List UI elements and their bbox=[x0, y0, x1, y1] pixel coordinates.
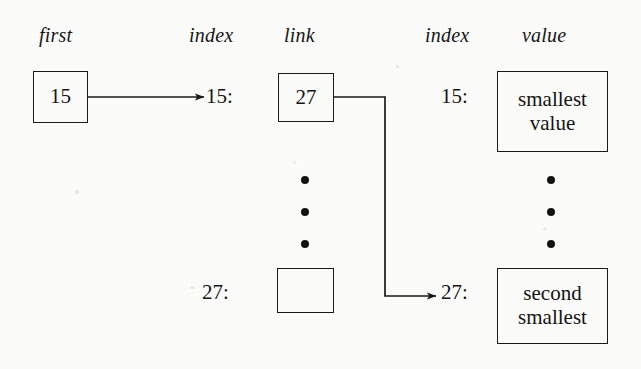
arrow-link-27-to-index-27 bbox=[334, 97, 436, 296]
linked-list-array-diagram: first index link index value 15 15: 27: … bbox=[0, 0, 641, 369]
connector-wires bbox=[0, 0, 641, 369]
